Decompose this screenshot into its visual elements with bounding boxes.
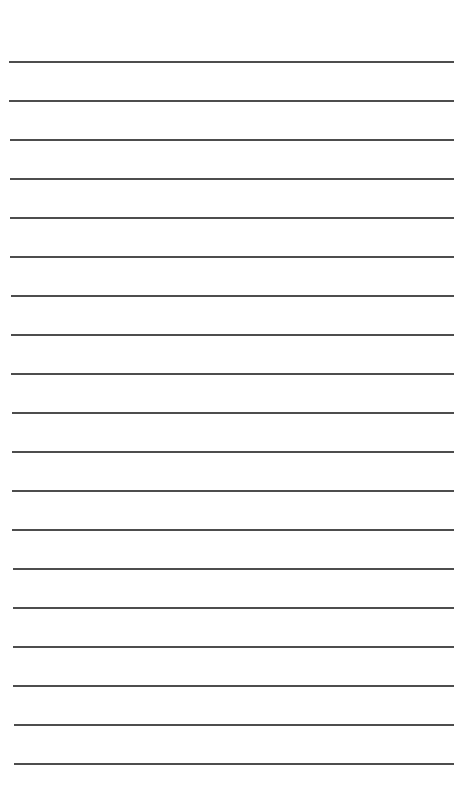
ruled-line: [12, 412, 455, 414]
ruled-line: [10, 217, 454, 219]
ruled-line: [9, 100, 454, 102]
ruled-line: [11, 295, 454, 297]
ruled-line: [11, 334, 454, 336]
lined-paper-page: [0, 0, 456, 807]
ruled-line: [13, 646, 454, 648]
ruled-line: [14, 763, 454, 765]
ruled-line: [10, 178, 454, 180]
ruled-line: [13, 607, 454, 609]
ruled-line: [10, 256, 454, 258]
ruled-line: [12, 490, 454, 492]
ruled-line: [14, 724, 454, 726]
ruled-line: [12, 529, 454, 531]
ruled-line: [13, 568, 454, 570]
ruled-line: [9, 61, 454, 63]
ruled-line: [13, 685, 454, 687]
ruled-line: [12, 451, 454, 453]
ruled-line: [11, 373, 454, 375]
ruled-line: [10, 139, 454, 141]
